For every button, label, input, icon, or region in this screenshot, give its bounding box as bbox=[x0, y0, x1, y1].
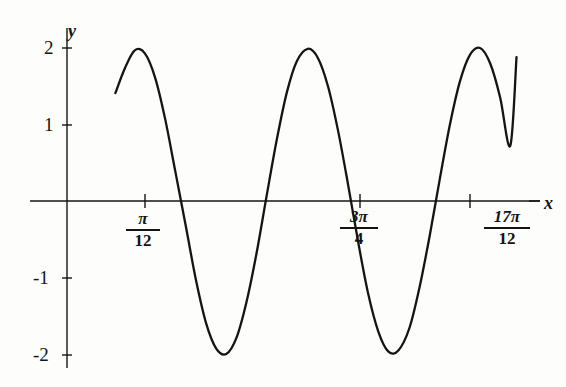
y-tick-label-2: 2 bbox=[44, 38, 54, 57]
y-tick-label-minus-2: -2 bbox=[33, 345, 49, 364]
x-tick-label-pi-over-12-denominator: 12 bbox=[126, 231, 160, 250]
x-tick-label-pi-over-12-numerator: π bbox=[126, 210, 160, 229]
sine-curve-plot bbox=[0, 0, 566, 387]
x-tick-label-3pi-over-4: 3π 4 bbox=[340, 208, 378, 248]
x-tick-label-17pi-over-12-denominator: 12 bbox=[484, 229, 530, 248]
y-axis-label: y bbox=[68, 22, 76, 40]
x-tick-label-17pi-over-12-numerator: 17π bbox=[484, 208, 530, 227]
x-tick-label-3pi-over-4-denominator: 4 bbox=[340, 229, 378, 248]
y-tick-label-minus-1: -1 bbox=[33, 268, 49, 287]
x-tick-label-pi-over-12: π 12 bbox=[126, 210, 160, 250]
x-tick-label-3pi-over-4-numerator: 3π bbox=[340, 208, 378, 227]
figure-container: y x 2 1 -1 -2 π 12 3π 4 17π 12 bbox=[0, 0, 566, 387]
x-tick-label-17pi-over-12: 17π 12 bbox=[484, 208, 530, 248]
y-tick-label-1: 1 bbox=[44, 115, 54, 134]
x-axis-label: x bbox=[544, 194, 553, 212]
